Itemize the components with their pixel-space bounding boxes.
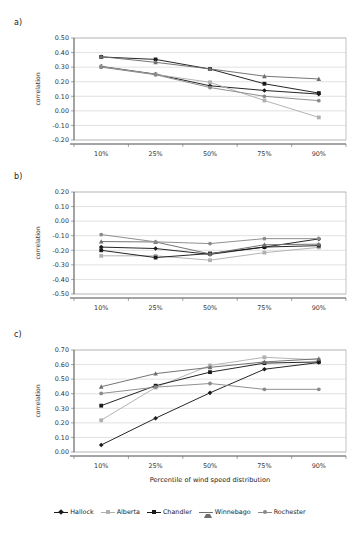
data-point-marker xyxy=(154,240,158,244)
x-tick-label: 25% xyxy=(148,304,162,312)
y-tick-label: 0.30 xyxy=(55,405,69,413)
data-point-marker xyxy=(154,385,158,389)
data-point-marker xyxy=(99,65,103,69)
y-tick-label: -0.50 xyxy=(52,290,69,298)
y-tick-label: 0.40 xyxy=(55,49,69,57)
x-tick-label: 90% xyxy=(312,304,326,312)
y-axis-title: correlation xyxy=(34,384,41,417)
data-point-marker xyxy=(317,99,321,103)
x-tick-label: 10% xyxy=(94,304,108,312)
x-tick-label: 75% xyxy=(257,462,271,470)
data-point-marker xyxy=(263,94,267,98)
y-tick-label: 0.10 xyxy=(55,203,69,211)
y-tick-label: 0.20 xyxy=(55,188,69,196)
legend-item-alberta[interactable]: Alberta xyxy=(101,508,140,516)
y-tick-label: 0.20 xyxy=(55,419,69,427)
x-tick-label: 10% xyxy=(94,462,108,470)
y-tick-label: -0.40 xyxy=(52,276,69,284)
x-axis-title: Percentile of wind speed distribution xyxy=(150,476,270,484)
data-point-marker xyxy=(208,258,212,262)
chart-c-canvas: 0.700.600.500.400.300.200.100.0010%25%50… xyxy=(0,342,360,502)
y-tick-label: 0.50 xyxy=(55,34,69,42)
data-point-marker xyxy=(208,370,212,374)
chart-a-canvas: 0.500.400.300.200.100.00-0.10-0.2010%25%… xyxy=(0,30,360,176)
x-tick-label: 90% xyxy=(312,150,326,158)
panel-c-label: c) xyxy=(14,330,22,339)
data-point-marker xyxy=(317,387,321,391)
legend-item-chandler[interactable]: Chandler xyxy=(147,508,192,516)
data-point-marker xyxy=(99,248,103,252)
panel-a-label: a) xyxy=(14,18,22,27)
data-point-marker xyxy=(208,382,212,386)
panel-c: c) 0.700.600.500.400.300.200.100.0010%25… xyxy=(0,330,360,498)
legend-label: Hallock xyxy=(70,508,93,516)
data-point-marker xyxy=(154,256,158,260)
y-tick-label: 0.00 xyxy=(55,217,69,225)
data-point-marker xyxy=(317,116,321,120)
x-tick-label: 25% xyxy=(148,150,162,158)
data-point-marker xyxy=(263,82,267,86)
data-point-marker xyxy=(263,237,267,241)
x-tick-label: 50% xyxy=(203,150,217,158)
data-point-marker xyxy=(208,86,212,90)
legend-label: Rochester xyxy=(274,508,306,516)
x-tick-label: 90% xyxy=(312,462,326,470)
y-tick-label: -0.20 xyxy=(52,247,69,255)
data-point-marker xyxy=(263,99,267,103)
data-point-marker xyxy=(99,254,103,258)
y-tick-label: 0.20 xyxy=(55,78,69,86)
legend-item-hallock[interactable]: Hallock xyxy=(54,508,93,516)
figure-root: a) 0.500.400.300.200.100.00-0.10-0.2010%… xyxy=(0,0,360,534)
data-point-marker xyxy=(154,73,158,77)
y-tick-label: 0.00 xyxy=(55,448,69,456)
data-point-marker xyxy=(99,392,103,396)
data-point-marker xyxy=(317,237,321,241)
legend-label: Chandler xyxy=(163,508,192,516)
data-point-marker xyxy=(263,251,267,255)
legend-marker-icon xyxy=(54,509,68,516)
data-point-marker xyxy=(263,387,267,391)
panel-b-plot: 0.200.100.00-0.10-0.20-0.30-0.40-0.5010%… xyxy=(0,184,360,330)
y-tick-label: 0.50 xyxy=(55,375,69,383)
chart-legend: HallockAlbertaChandlerWinnebagoRochester xyxy=(0,508,360,516)
y-tick-label: -0.10 xyxy=(52,122,69,130)
y-tick-label: 0.60 xyxy=(55,361,69,369)
y-tick-label: -0.20 xyxy=(52,136,69,144)
y-tick-label: -0.30 xyxy=(52,261,69,269)
y-axis-title: correlation xyxy=(34,72,41,105)
panel-a-plot: 0.500.400.300.200.100.00-0.10-0.2010%25%… xyxy=(0,30,360,176)
data-point-marker xyxy=(99,418,103,422)
data-point-marker xyxy=(99,233,103,237)
data-point-marker xyxy=(263,355,267,359)
legend-marker-icon xyxy=(258,509,272,516)
legend-label: Alberta xyxy=(117,508,140,516)
legend-marker-icon xyxy=(199,509,213,516)
panel-b: b) 0.200.100.00-0.10-0.20-0.30-0.40-0.50… xyxy=(0,172,360,330)
y-tick-label: 0.00 xyxy=(55,107,69,115)
y-tick-label: 0.70 xyxy=(55,346,69,354)
y-tick-label: 0.30 xyxy=(55,63,69,71)
data-point-marker xyxy=(208,80,212,84)
panel-b-label: b) xyxy=(14,172,23,181)
y-tick-label: -0.10 xyxy=(52,232,69,240)
legend-marker-icon xyxy=(101,509,115,516)
legend-label: Winnebago xyxy=(215,508,251,516)
legend-item-winnebago[interactable]: Winnebago xyxy=(199,508,251,516)
y-tick-label: 0.10 xyxy=(55,434,69,442)
panel-a: a) 0.500.400.300.200.100.00-0.10-0.2010%… xyxy=(0,18,360,176)
y-tick-label: 0.10 xyxy=(55,93,69,101)
x-tick-label: 25% xyxy=(148,462,162,470)
data-point-marker xyxy=(208,242,212,246)
data-point-marker xyxy=(317,91,321,95)
y-tick-label: 0.40 xyxy=(55,390,69,398)
x-tick-label: 50% xyxy=(203,304,217,312)
y-axis-title: correlation xyxy=(34,226,41,259)
legend-marker-icon xyxy=(147,509,161,516)
x-tick-label: 10% xyxy=(94,150,108,158)
chart-b-canvas: 0.200.100.00-0.10-0.20-0.30-0.40-0.5010%… xyxy=(0,184,360,330)
x-tick-label: 75% xyxy=(257,150,271,158)
x-tick-label: 50% xyxy=(203,462,217,470)
x-tick-label: 75% xyxy=(257,304,271,312)
panel-c-plot: 0.700.600.500.400.300.200.100.0010%25%50… xyxy=(0,342,360,502)
legend-item-rochester[interactable]: Rochester xyxy=(258,508,306,516)
